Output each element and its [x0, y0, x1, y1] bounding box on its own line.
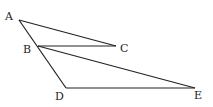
point-label-e: E — [194, 89, 202, 102]
point-label-a: A — [4, 10, 14, 23]
point-label-c: C — [120, 42, 128, 55]
geometry-diagram: A B C D E — [0, 0, 213, 107]
point-label-b: B — [23, 43, 31, 56]
point-label-d: D — [55, 90, 64, 103]
